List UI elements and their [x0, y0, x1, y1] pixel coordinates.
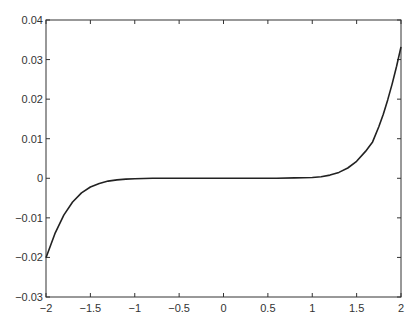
- plot-area: −2−1.5−1−0.500.511.52−0.03−0.02−0.0100.0…: [15, 14, 404, 314]
- axes-box: [46, 20, 401, 297]
- x-tick-label: −1: [128, 302, 141, 314]
- x-tick-label: −0.5: [168, 302, 190, 314]
- data-line: [46, 47, 401, 258]
- x-tick-label: 0.5: [260, 302, 275, 314]
- y-tick-label: 0.03: [22, 54, 43, 66]
- x-tick-label: −1.5: [80, 302, 102, 314]
- x-tick-label: 1: [309, 302, 315, 314]
- y-tick-label: −0.02: [15, 251, 43, 263]
- x-tick-label: 2: [398, 302, 404, 314]
- y-tick-label: −0.03: [15, 291, 43, 303]
- y-tick-label: 0.01: [22, 133, 43, 145]
- line-chart: −2−1.5−1−0.500.511.52−0.03−0.02−0.0100.0…: [0, 0, 417, 329]
- x-tick-label: −2: [40, 302, 53, 314]
- y-tick-label: 0: [37, 172, 43, 184]
- y-tick-label: 0.02: [22, 93, 43, 105]
- x-tick-label: 1.5: [349, 302, 364, 314]
- y-tick-label: −0.01: [15, 212, 43, 224]
- x-tick-label: 0: [220, 302, 226, 314]
- y-tick-label: 0.04: [22, 14, 43, 26]
